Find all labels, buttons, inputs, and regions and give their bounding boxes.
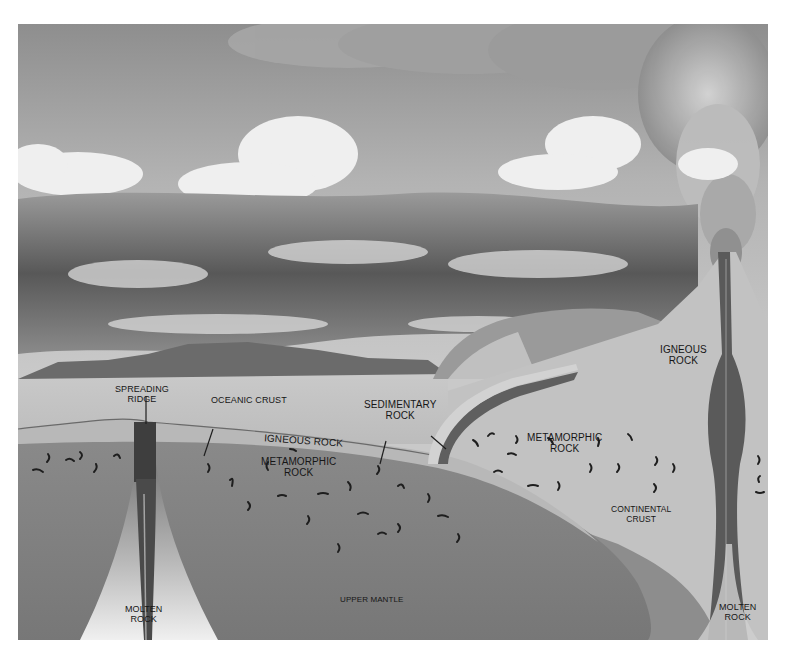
label-sedimentary-rock: SEDIMENTARY ROCK [364, 399, 436, 421]
label-continental-crust: CONTINENTAL CRUST [611, 504, 671, 524]
label-spreading-ridge: SPREADING RIDGE [115, 384, 169, 404]
rock-cycle-diagram: SPREADING RIDGE OCEANIC CRUST SEDIMENTAR… [18, 24, 768, 640]
label-igneous-rock-volcano: IGNEOUS ROCK [660, 344, 707, 366]
label-oceanic-crust: OCEANIC CRUST [211, 395, 287, 405]
diagram-illustration [18, 24, 768, 640]
label-molten-rock-left: MOLTEN ROCK [125, 604, 162, 624]
label-metamorphic-rock-ocean: METAMORPHIC ROCK [261, 456, 336, 478]
spreading-ridge-conduit [134, 422, 156, 482]
label-upper-mantle: UPPER MANTLE [340, 595, 403, 605]
label-molten-rock-right: MOLTEN ROCK [719, 602, 756, 622]
label-metamorphic-rock-continent: METAMORPHIC ROCK [527, 432, 602, 454]
